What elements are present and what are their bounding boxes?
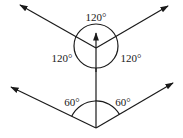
vector-lower-right	[96, 83, 173, 128]
top-figure: 120° 120° 120°	[20, 5, 168, 72]
bottom-figure: 60° 60°	[11, 68, 173, 128]
label-right-120: 120°	[121, 52, 142, 64]
angle-diagram: 120° 120° 120° 60° 60°	[0, 0, 183, 138]
label-right-60: 60°	[115, 96, 130, 108]
vector-lower-left	[11, 87, 96, 128]
label-left-60: 60°	[64, 96, 79, 108]
label-top-120: 120°	[86, 11, 107, 23]
label-left-120: 120°	[52, 52, 73, 64]
